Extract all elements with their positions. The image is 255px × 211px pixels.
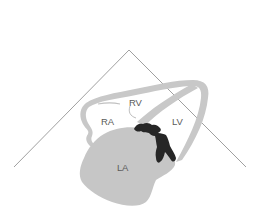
heart-diagram: RV RA LV LA — [0, 0, 255, 211]
label-lv: LV — [172, 116, 183, 127]
label-rv: RV — [129, 97, 142, 108]
rv-inner-line — [98, 103, 120, 104]
label-la: LA — [117, 162, 129, 173]
label-ra: RA — [101, 116, 115, 127]
